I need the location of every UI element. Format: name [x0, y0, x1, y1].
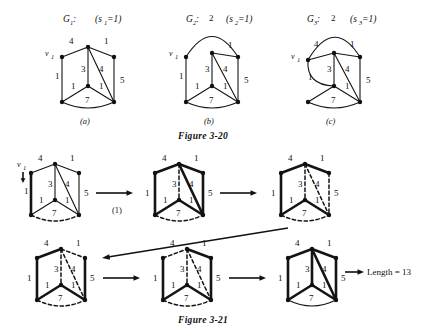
s5-node-center [185, 283, 189, 287]
s6-node-bottom-left [286, 298, 290, 302]
s2-node-center [177, 198, 181, 202]
s4-weight-2: 1 [27, 273, 32, 283]
s2-weight-7: 1 [189, 195, 194, 205]
s2-weight-4: 4 [189, 179, 194, 189]
g2-node-apex [210, 51, 214, 55]
g3-weight-1: 4 [314, 39, 319, 49]
g1-vertex-sub: 1 [51, 53, 54, 60]
s5-weight-5: 5 [216, 273, 221, 283]
g2-vertex-label: v [169, 49, 173, 58]
g2-param-close: =1) [238, 14, 252, 25]
state-4: 4 1 1 3 4 5 1 1 7 [27, 238, 95, 306]
g1-label-colon: : [73, 14, 76, 24]
state-3: 4 1 1 3 4 5 1 1 7 [271, 153, 339, 221]
s1-weight-0: 4 [38, 153, 43, 163]
s1-vertex-sub: 1 [23, 164, 26, 171]
figure-page: G 1 : (s 1 =1) v 1 4 1 1 3 4 5 1 1 7 (a) [0, 0, 427, 334]
s4-weight-8: 7 [58, 293, 63, 303]
s5-weight-1: 1 [202, 238, 207, 248]
g1-weight-0: 4 [69, 36, 74, 46]
panel-caption-a: (a) [80, 116, 90, 126]
g1-weight-7: 1 [99, 81, 104, 91]
s1-node-center [53, 198, 57, 202]
g2-node-right-upper [236, 55, 240, 59]
transition-arrow-3-diagonal [102, 228, 288, 260]
s2-weight-5: 5 [208, 188, 213, 198]
s2-node-bottom-left [153, 213, 157, 217]
s6-weight-4: 4 [322, 264, 327, 274]
s1-weight-2: 1 [24, 186, 29, 196]
g2-vertex-sub: 1 [175, 53, 178, 60]
s3-node-bottom-right [327, 213, 331, 217]
g1-weight-4: 4 [99, 64, 104, 74]
g3-weight-8: 7 [331, 95, 336, 105]
s3-node-right-upper [327, 171, 331, 175]
s6-weight-8: 7 [309, 293, 314, 303]
s5-node-right-upper [209, 256, 213, 260]
g1-weight-1: 1 [104, 36, 109, 46]
panel-caption-b: (b) [204, 116, 214, 126]
s3-node-center [303, 198, 307, 202]
length-arrow-head [358, 269, 365, 275]
s2-node-right-upper [201, 171, 205, 175]
g3-node-right-upper [358, 55, 362, 59]
s3-weight-2: 1 [271, 188, 276, 198]
s2-weight-2: 1 [145, 188, 150, 198]
s1-weight-8: 7 [52, 208, 57, 218]
g3-weight-0: 2 [331, 13, 336, 23]
g1-weight-3: 3 [81, 64, 86, 74]
g3-edge-apex-right [334, 53, 360, 57]
s5-weight-8: 7 [184, 293, 189, 303]
s5-node-bottom-left [161, 298, 165, 302]
g2-weight-1: 1 [228, 40, 233, 50]
g3-weight-4: 4 [345, 64, 350, 74]
transition-arrow-4 [103, 275, 140, 281]
s6-node-apex [310, 247, 314, 251]
s5-weight-3: 3 [180, 264, 185, 274]
s4-weight-3: 3 [54, 264, 59, 274]
s1-node-bottom-right [77, 213, 81, 217]
g1-node-v1 [60, 55, 64, 59]
s4-node-apex [59, 247, 63, 251]
s2-node-bottom-right [201, 213, 205, 217]
s4-node-right-upper [83, 256, 87, 260]
g3-node-v1 [306, 58, 310, 62]
s2-weight-0: 4 [162, 153, 167, 163]
arrow-2-head [251, 190, 258, 196]
arrow-5-head [260, 275, 267, 281]
g3-node-center [332, 84, 336, 88]
state-1: v 1 4 1 1 3 4 5 1 1 7 [17, 153, 89, 221]
s2-node-v1 [153, 171, 157, 175]
length-label: Length = 13 [367, 267, 412, 277]
s1-weight-6: 1 [39, 195, 44, 205]
length-annotation-arrow [345, 269, 364, 275]
g1-vertex-label: v [45, 49, 49, 58]
g2-label: G [186, 14, 193, 24]
s3-weight-5: 5 [334, 188, 339, 198]
s5-node-apex [185, 247, 189, 251]
g3-label: G [307, 14, 314, 24]
s6-weight-0: 4 [295, 238, 300, 248]
g1-node-bottom-right [112, 100, 116, 104]
g1-weight-5: 5 [120, 75, 125, 85]
panel-caption-c: (c) [326, 116, 336, 126]
s4-edge-top-left [37, 249, 61, 258]
s1-start-arrowhead [21, 178, 26, 183]
s1-vertex-label: v [17, 160, 21, 169]
s6-node-right-upper [334, 256, 338, 260]
g1-node-right-upper [112, 55, 116, 59]
state-2: 4 1 1 3 4 5 1 1 7 [145, 153, 213, 221]
g2-weight-8: 7 [209, 95, 214, 105]
g1-weight-2: 1 [55, 71, 60, 81]
s6-weight-6: 1 [296, 280, 301, 290]
g1-param-open: (s [95, 14, 102, 25]
g2-weight-5: 5 [244, 75, 249, 85]
s6-weight-1: 1 [327, 238, 332, 248]
s1-weight-1: 1 [70, 153, 75, 163]
g2-node-v1 [184, 55, 188, 59]
s5-weight-2: 1 [153, 273, 158, 283]
s5-node-v1 [161, 256, 165, 260]
s3-edge-top-left [281, 164, 305, 173]
s5-node-bottom-right [209, 298, 213, 302]
g3-node-bottom-right [358, 100, 362, 104]
